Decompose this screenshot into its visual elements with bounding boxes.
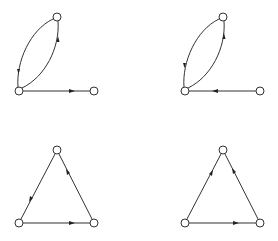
edge-a-to-b-curved xyxy=(184,19,219,87)
node-c xyxy=(90,219,98,227)
arrow-head-icon xyxy=(232,168,236,174)
node-c xyxy=(256,219,264,227)
arrow-head-icon xyxy=(17,69,20,74)
edge-a-to-b-curved xyxy=(18,19,53,87)
node-a xyxy=(53,146,61,154)
node-b xyxy=(15,87,23,95)
node-b xyxy=(181,87,189,95)
arrow-head-icon xyxy=(69,221,75,225)
node-c xyxy=(256,87,264,95)
graph-top-right xyxy=(181,13,264,95)
graph-bottom-right xyxy=(181,146,264,227)
node-a xyxy=(219,146,227,154)
graph-bottom-left xyxy=(15,146,98,227)
edge-b-to-a-curved xyxy=(188,21,224,88)
edge-c-to-a xyxy=(59,154,92,219)
node-a xyxy=(53,13,61,21)
edge-b-to-a-curved xyxy=(22,21,58,88)
arrow-head-icon xyxy=(212,89,218,93)
arrow-head-icon xyxy=(233,221,239,225)
edge-b-to-a xyxy=(187,154,221,219)
node-a xyxy=(219,13,227,21)
arrow-head-icon xyxy=(223,33,226,39)
edge-c-to-a xyxy=(225,154,258,219)
diagram-canvas xyxy=(0,0,278,241)
arrow-head-icon xyxy=(69,89,75,93)
graph-top-left xyxy=(15,13,98,95)
node-c xyxy=(90,87,98,95)
node-b xyxy=(15,219,23,227)
node-b xyxy=(181,219,189,227)
edge-a-to-b xyxy=(21,154,55,219)
